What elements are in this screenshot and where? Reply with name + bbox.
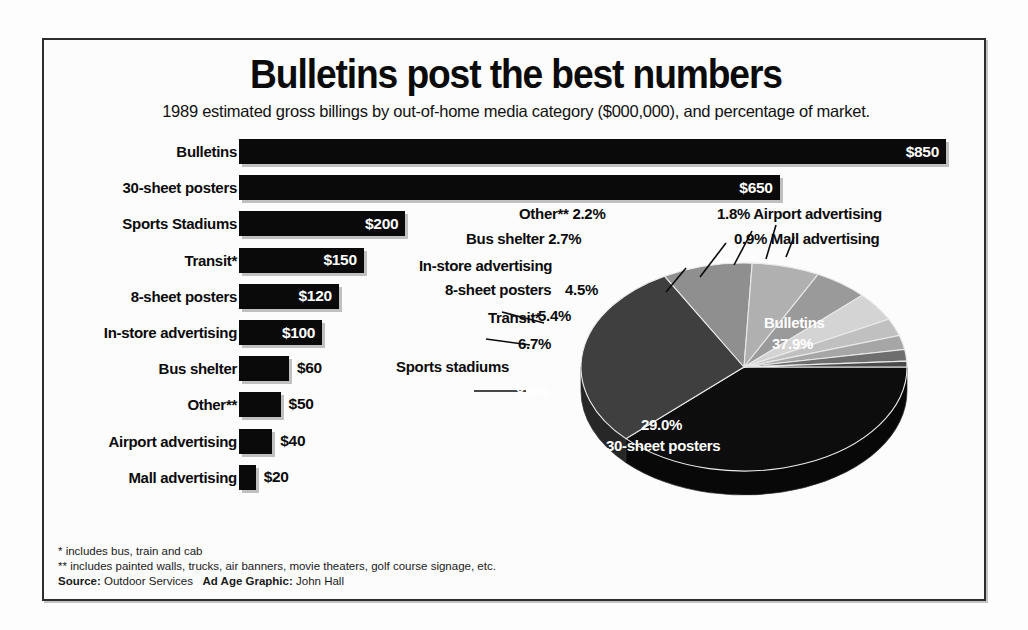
footnote-double-star: ** includes painted walls, trucks, air b… [58, 559, 758, 574]
pie-value-label-bulletins-name: Bulletins [764, 314, 825, 331]
chart-frame: Bulletins post the best numbers 1989 est… [42, 38, 986, 601]
pie-callout-mall: 0.9% Mall advertising [734, 230, 879, 247]
bar: $200 [239, 211, 405, 236]
bar: $150 [239, 248, 364, 273]
bar-row: 30-sheet posters$650 [44, 172, 564, 202]
bar: $100 [239, 320, 322, 345]
bar-category-label: Other** [187, 396, 237, 413]
pie-callout-other: Other** 2.2% [519, 205, 605, 222]
bar-value-label: $850 [906, 143, 939, 161]
pie-callout-8-sheet: 8-sheet posters [445, 281, 551, 298]
bar-category-label: In-store advertising [104, 324, 237, 341]
bar [239, 356, 289, 381]
pie-callout-sports: Sports stadiums [396, 358, 509, 375]
scanned-page: Bulletins post the best numbers 1989 est… [0, 0, 1028, 630]
bar-value-label: $40 [280, 432, 305, 450]
pie-value-label-transit: 6.7% [518, 335, 551, 352]
bar-category-label: 8-sheet posters [131, 287, 237, 304]
pie-callout-airport: 1.8% Airport advertising [717, 205, 882, 222]
credit-label: Ad Age Graphic: [202, 575, 292, 587]
bar: $850 [239, 139, 946, 164]
bar-row: Bulletins$850 [44, 136, 564, 166]
bar-category-label: Sports Stadiums [122, 215, 237, 232]
pie-value-label-thirtysheet-pct: 29.0% [641, 416, 682, 433]
pie-value-label-thirtysheet-name: 30-sheet posters [606, 437, 720, 454]
source-value: Outdoor Services [104, 575, 193, 587]
bar: $650 [239, 175, 780, 200]
bar-category-label: Mall advertising [128, 468, 237, 485]
chart-subtitle: 1989 estimated gross billings by out-of-… [44, 102, 988, 121]
bar-category-label: 30-sheet posters [123, 179, 237, 196]
bar-value-label: $120 [299, 287, 332, 305]
bar: $120 [239, 284, 339, 309]
page-title: Bulletins post the best numbers [77, 52, 955, 97]
bar-value-label: $150 [323, 251, 356, 269]
pie-callout-bus-shelter: Bus shelter 2.7% [466, 230, 581, 247]
bar-value-label: $50 [289, 395, 314, 413]
footnotes: * includes bus, train and cab ** include… [58, 544, 758, 589]
pie-value-label-bulletins-pct: 37.9% [772, 335, 813, 352]
source-line: Source: Outdoor Services Ad Age Graphic:… [58, 574, 758, 589]
footnote-single-star: * includes bus, train and cab [58, 544, 758, 559]
bar-category-label: Transit* [184, 251, 237, 268]
pie-chart: Other** 2.2%1.8% Airport advertisingBus … [434, 215, 988, 535]
bar-value-label: $200 [365, 215, 398, 233]
source-label: Source: [58, 575, 101, 587]
credit-value: John Hall [296, 575, 344, 587]
bar-category-label: Bulletins [176, 143, 237, 160]
pie-callout-transit: Transit* [488, 309, 541, 326]
bar-category-label: Airport advertising [109, 432, 238, 449]
pie-value-label-instore: 4.5% [565, 281, 598, 298]
bar-value-label: $100 [282, 324, 315, 342]
bar [239, 429, 272, 454]
bar [239, 392, 281, 417]
pie-callout-in-store: In-store advertising [419, 257, 552, 274]
bar-value-label: $650 [739, 179, 772, 197]
bar-value-label: $60 [297, 359, 322, 377]
bar [239, 465, 256, 490]
bar-category-label: Bus shelter [159, 360, 237, 377]
pie-value-label-sports: 8.9% [516, 383, 549, 400]
pie-value-label-eightsheet: 5.4% [538, 307, 571, 324]
bar-value-label: $20 [264, 468, 289, 486]
